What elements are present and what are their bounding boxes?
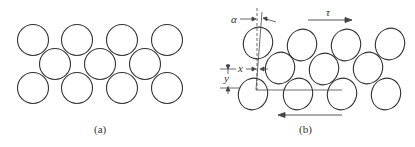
arrow-down-icon bbox=[226, 65, 230, 69]
particle bbox=[62, 73, 93, 104]
particle bbox=[152, 25, 183, 56]
arrow-left-icon bbox=[260, 67, 264, 71]
y-label: y bbox=[223, 72, 229, 84]
arrow-right-icon bbox=[252, 67, 256, 71]
x-label: x bbox=[237, 62, 243, 74]
arrow-right-icon bbox=[252, 17, 256, 21]
arrow-left-icon bbox=[263, 17, 267, 21]
particle bbox=[18, 73, 49, 104]
particle bbox=[367, 74, 405, 114]
arrow-left-icon bbox=[278, 113, 285, 118]
particle bbox=[234, 74, 272, 114]
tau-arrow bbox=[308, 18, 352, 23]
particle bbox=[279, 74, 317, 114]
particle bbox=[371, 24, 409, 64]
particle bbox=[327, 25, 365, 65]
shear-arrow-bottom bbox=[278, 113, 342, 118]
caption-b: (b) bbox=[299, 123, 312, 136]
particle bbox=[85, 49, 116, 80]
particle bbox=[152, 73, 183, 104]
tau-label: τ bbox=[326, 6, 331, 18]
particle bbox=[40, 49, 71, 80]
arrow-right-icon bbox=[345, 18, 352, 23]
alpha-marker bbox=[240, 17, 276, 22]
particle bbox=[239, 23, 277, 63]
particle bbox=[107, 73, 138, 104]
figure: (a) α τ bbox=[0, 0, 415, 147]
particle bbox=[349, 48, 387, 88]
particle bbox=[62, 25, 93, 56]
y-dimension bbox=[220, 64, 240, 94]
caption-a: (a) bbox=[94, 123, 107, 136]
particle bbox=[261, 48, 299, 88]
particle bbox=[283, 25, 321, 65]
particle bbox=[323, 74, 361, 114]
panel-a bbox=[18, 25, 183, 104]
particle bbox=[107, 25, 138, 56]
particle bbox=[18, 25, 49, 56]
alpha-label: α bbox=[231, 13, 237, 25]
particle bbox=[130, 49, 161, 80]
particle bbox=[305, 49, 343, 89]
